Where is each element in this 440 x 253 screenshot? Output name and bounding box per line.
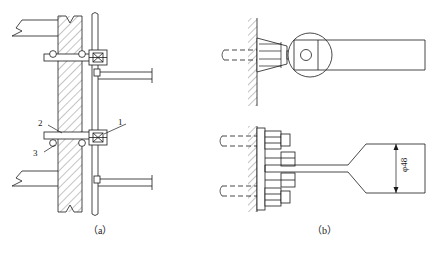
lower-support-rail (94, 175, 152, 190)
figure-b-caption: （b） (312, 222, 337, 237)
section-end-cap-top (222, 50, 224, 60)
bolt-group-upper (265, 131, 290, 149)
arm-top (318, 40, 425, 70)
callout-label-1: 1 (118, 117, 123, 127)
dimension-phi48 (394, 144, 399, 193)
drawing-canvas (0, 0, 440, 253)
web-plates (265, 165, 348, 172)
lower-floor-slab (12, 171, 58, 186)
drawing-sheet: （a） （b） 1 2 3 φ48 (0, 0, 440, 253)
figure-a-caption: （a） (88, 222, 112, 237)
callout-label-3: 3 (33, 148, 38, 158)
upper-support-rail (94, 68, 152, 83)
bolt-group-middle (265, 152, 295, 187)
figure-a-geometry (12, 13, 425, 216)
dimension-label-phi48: φ48 (399, 158, 409, 172)
flared-blade (348, 144, 425, 193)
upper-floor-slab (12, 20, 58, 36)
callout-label-2: 2 (38, 118, 43, 128)
figure-b-top-view (222, 18, 425, 106)
figure-b-bottom-view (220, 126, 425, 212)
bolt-group-lower (265, 188, 290, 206)
wall-section-hatched (58, 16, 82, 212)
cladding-panel (92, 13, 98, 216)
